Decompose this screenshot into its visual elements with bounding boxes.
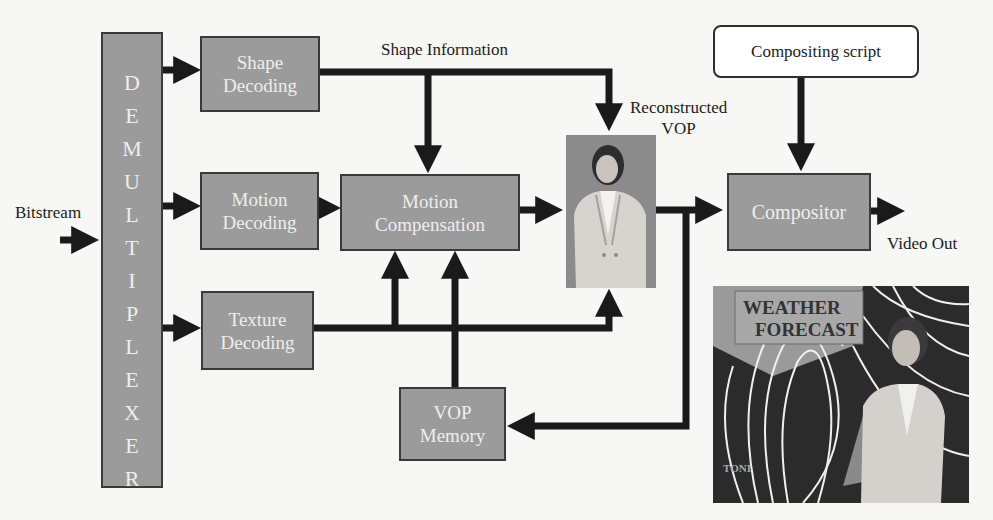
vop-memory-block: VOP Memory xyxy=(399,387,506,461)
demux-letter: U xyxy=(124,165,140,198)
demux-letter: L xyxy=(125,330,138,363)
demux-letter: T xyxy=(125,231,138,264)
demux-letter: L xyxy=(125,198,138,231)
texture-decoding-block: Texture Decoding xyxy=(201,291,314,370)
demux-letter: M xyxy=(122,132,142,165)
motion-compensation-block: Motion Compensation xyxy=(340,174,520,251)
presenter-figure-icon xyxy=(566,135,656,288)
shape-to-vop-arrow xyxy=(291,72,609,120)
forecast-caption: FORECAST xyxy=(755,319,859,340)
demux-letter: P xyxy=(126,297,138,330)
demux-letter: R xyxy=(125,462,140,495)
weather-forecast-frame-icon: WEATHER FORECAST TONI xyxy=(713,286,969,503)
demux-letter: E xyxy=(125,429,138,462)
bitstream-label: Bitstream xyxy=(15,203,81,223)
weather-caption: WEATHER xyxy=(743,297,841,318)
demux-letter: I xyxy=(128,264,135,297)
demux-letter: E xyxy=(125,363,138,396)
texture-to-vop-arrow xyxy=(313,300,609,328)
shape-decoding-block: Shape Decoding xyxy=(200,36,320,112)
compositor-block: Compositor xyxy=(727,173,871,251)
reconstructed-vop-label: Reconstructed VOP xyxy=(630,97,727,139)
motion-decoding-block: Motion Decoding xyxy=(200,172,319,250)
demux-letter: E xyxy=(125,99,138,132)
shape-information-label: Shape Information xyxy=(381,40,508,60)
demux-letter: X xyxy=(124,396,140,429)
demultiplexer-block: D E M U L T I P L E X E R xyxy=(101,32,163,488)
video-out-label: Video Out xyxy=(887,234,957,254)
compositing-script-block: Compositing script xyxy=(713,25,919,78)
demux-letter: D xyxy=(124,66,140,99)
decoder-diagram: Bitstream D E M U L T I P L E X E R Shap… xyxy=(0,0,993,520)
svg-text:TONI: TONI xyxy=(723,462,751,474)
